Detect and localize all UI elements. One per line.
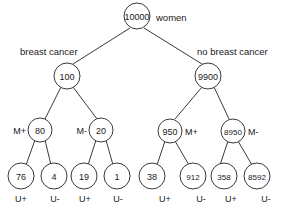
edge-l3c-to-leaf6 (175, 141, 189, 165)
edge-l3b-to-leaf3 (88, 140, 96, 165)
edge-root-to-right (144, 28, 202, 64)
edge-l3a-to-leaf2 (45, 140, 51, 165)
leaf-1-value: 76 (16, 172, 26, 182)
leaf-node-4[interactable]: 1 (104, 163, 130, 189)
leaf-2-value: 4 (51, 172, 56, 182)
node-l3a-value: 80 (35, 126, 45, 136)
decision-tree-diagram: 10000 women breast cancer no breast canc… (0, 0, 281, 211)
edge-l3d-to-leaf8 (238, 141, 252, 165)
root-annotation-women: women (155, 12, 187, 23)
node-l3c-value: 950 (162, 127, 177, 137)
edge-root-to-left (73, 28, 130, 64)
leaf-7-tag: U+ (225, 194, 237, 204)
tag-l3b-m-minus: M- (77, 126, 88, 136)
node-root-value: 10000 (124, 12, 149, 22)
leaf-7-value: 358 (217, 173, 231, 182)
edge-l2b-to-l3c (175, 87, 202, 119)
leaf-3-tag: U+ (79, 194, 91, 204)
leaf-4-tag: U- (113, 194, 123, 204)
leaf-node-1[interactable]: 76 (8, 163, 34, 189)
edge-l3d-to-leaf7 (220, 141, 228, 165)
leaf-2-tag: U- (50, 194, 60, 204)
branch-label-breast-cancer: breast cancer (20, 46, 78, 57)
tag-l3a-m-plus: M+ (13, 126, 26, 136)
leaf-node-8[interactable]: 8592 (244, 163, 270, 189)
edge-l2a-to-l3b (73, 87, 97, 119)
node-l3d-value: 8950 (224, 128, 242, 137)
node-l3-mammogram-negative-cancer[interactable]: 20 (89, 118, 113, 142)
tree-graphic: 10000 women breast cancer no breast canc… (0, 0, 281, 211)
leaf-node-5[interactable]: 38 (139, 163, 165, 189)
edge-l3c-to-leaf5 (157, 141, 165, 165)
node-l2a-value: 100 (59, 72, 74, 82)
edge-l3a-to-leaf1 (26, 140, 35, 165)
leaf-4-value: 1 (114, 172, 119, 182)
leaf-8-tag: U- (261, 194, 271, 204)
leaf-5-tag: U+ (159, 194, 171, 204)
node-breast-cancer-100[interactable]: 100 (54, 63, 80, 89)
leaf-3-value: 19 (79, 172, 89, 182)
leaf-node-3[interactable]: 19 (71, 163, 97, 189)
branch-label-no-breast-cancer: no breast cancer (197, 46, 268, 57)
leaf-node-7[interactable]: 358 (211, 163, 237, 189)
leaf-1-tag: U+ (15, 194, 27, 204)
leaf-6-value: 912 (186, 173, 200, 182)
leaf-6-tag: U- (196, 194, 206, 204)
leaf-8-value: 8592 (248, 173, 266, 182)
leaf-node-2[interactable]: 4 (41, 163, 67, 189)
tag-l3c-m-plus: M+ (185, 127, 198, 137)
node-l3-mammogram-positive-cancer[interactable]: 80 (28, 118, 52, 142)
edge-l3b-to-leaf4 (106, 140, 113, 165)
node-l3-mammogram-negative-healthy[interactable]: 8950 (221, 119, 245, 143)
edge-l2a-to-l3a (45, 87, 61, 119)
node-root[interactable]: 10000 (124, 3, 150, 29)
node-no-breast-cancer-9900[interactable]: 9900 (195, 63, 221, 89)
node-l2b-value: 9900 (198, 72, 218, 82)
leaf-node-6[interactable]: 912 (180, 163, 206, 189)
edge-l2b-to-l3d (214, 87, 229, 119)
leaf-5-value: 38 (147, 172, 157, 182)
node-l3b-value: 20 (96, 126, 106, 136)
node-l3-mammogram-positive-healthy[interactable]: 950 (158, 119, 182, 143)
tag-l3d-m-minus: M- (248, 127, 259, 137)
